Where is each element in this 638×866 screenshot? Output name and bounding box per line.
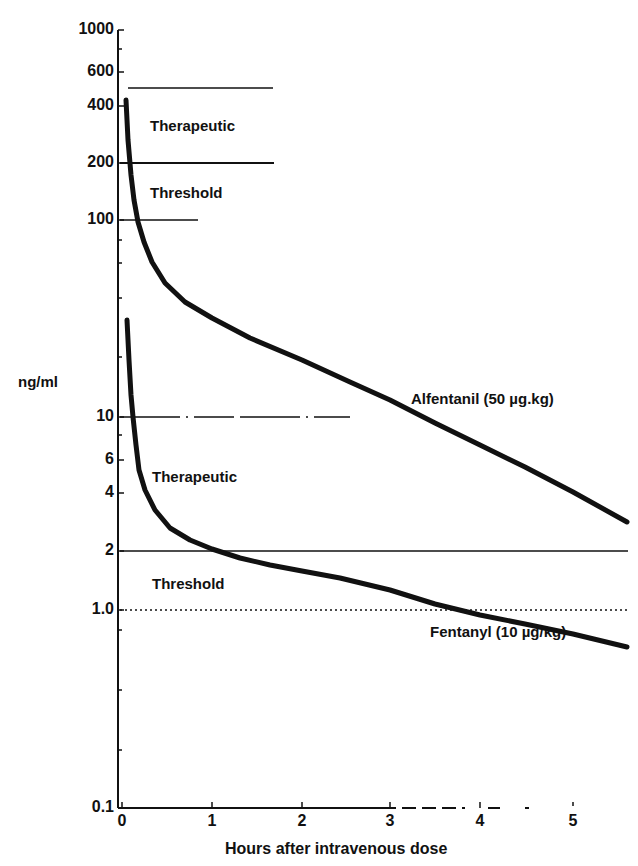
x-tick-5: 5 <box>563 812 583 830</box>
alf-therapeutic-label: Therapeutic <box>150 117 235 134</box>
y-tick-100: 100 <box>62 210 114 228</box>
x-axis-label: Hours after intravenous dose <box>225 840 447 858</box>
fen-threshold-label: Threshold <box>152 575 225 592</box>
fentanyl-series-label: Fentanyl (10 µg/kg) <box>430 623 566 640</box>
y-axis-label: ng/ml <box>18 373 58 390</box>
alf-threshold-label: Threshold <box>150 184 223 201</box>
x-tick-3: 3 <box>380 812 400 830</box>
y-tick-2: 2 <box>62 541 114 559</box>
y-tick-1: 1.0 <box>62 600 114 618</box>
y-tick-4: 4 <box>62 483 114 501</box>
chart-canvas <box>0 0 638 866</box>
x-tick-0: 0 <box>112 812 132 830</box>
y-tick-1000: 1000 <box>62 20 114 38</box>
y-tick-600: 600 <box>62 62 114 80</box>
x-tick-1: 1 <box>202 812 222 830</box>
y-tick-0.1: 0.1 <box>62 798 114 816</box>
x-tick-4: 4 <box>470 812 490 830</box>
fen-therapeutic-label: Therapeutic <box>152 468 237 485</box>
y-tick-6: 6 <box>62 450 114 468</box>
y-tick-10: 10 <box>62 407 114 425</box>
y-tick-400: 400 <box>62 96 114 114</box>
alfentanil-series-label: Alfentanil (50 µg.kg) <box>411 390 554 407</box>
x-tick-2: 2 <box>292 812 312 830</box>
y-tick-200: 200 <box>62 153 114 171</box>
